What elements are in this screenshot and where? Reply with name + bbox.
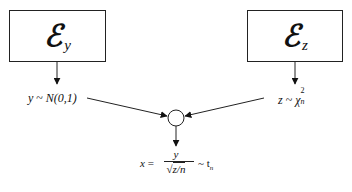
output-formula: x = y √z/n ~ tn — [138, 148, 228, 180]
y-distribution-label: y ~ N(0,1) — [28, 92, 77, 104]
formula-lhs: x = — [140, 157, 154, 169]
clipped-caption — [40, 185, 340, 192]
source-z-label: ℰz — [248, 11, 342, 61]
script-e-symbol: ℰ — [282, 21, 300, 51]
combiner-circle — [168, 110, 184, 126]
formula-tdist: ~ tn — [198, 157, 213, 169]
subscript-y: y — [64, 37, 71, 54]
subscript-z: z — [302, 37, 308, 54]
z-distribution-label: z ~ χ2n — [278, 92, 306, 106]
script-e-symbol: ℰ — [44, 21, 62, 51]
source-y-label: ℰy — [10, 11, 105, 61]
source-z-box: ℰz — [247, 10, 343, 62]
formula-fraction: y √z/n — [158, 148, 194, 175]
edge-y-to-combiner — [87, 98, 167, 116]
source-y-box: ℰy — [9, 10, 106, 62]
edge-z-to-combiner — [185, 98, 264, 116]
